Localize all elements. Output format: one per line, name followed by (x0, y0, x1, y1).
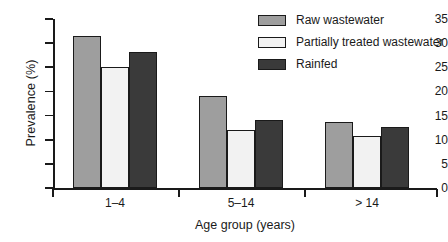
x-axis-title: Age group (years) (53, 218, 437, 232)
bar (325, 122, 353, 188)
bar (73, 36, 101, 188)
bar (353, 136, 381, 188)
bar (381, 127, 409, 188)
y-tick (45, 66, 53, 68)
x-group-label: 1–4 (55, 196, 175, 210)
x-tick (178, 189, 180, 197)
x-axis-line (53, 188, 437, 190)
legend-swatch (258, 59, 286, 70)
y-tick (45, 139, 53, 141)
y-tick (45, 163, 53, 165)
x-group-label: 5–14 (181, 196, 301, 210)
y-tick (45, 18, 53, 20)
y-tick (45, 91, 53, 93)
legend-label: Rainfed (296, 57, 337, 71)
legend-label: Raw wastewater (296, 13, 384, 27)
x-tick (304, 189, 306, 197)
bar (101, 67, 129, 188)
x-tick (52, 189, 54, 197)
x-tick (436, 189, 438, 197)
bar-chart-figure: Prevalence (%) 05101520253035 1–45–14> 1… (0, 0, 448, 242)
bar (129, 52, 157, 188)
bar (255, 120, 283, 188)
y-tick (45, 42, 53, 44)
bar (227, 130, 255, 188)
x-group-label: > 14 (307, 196, 427, 210)
y-axis-title: Prevalence (%) (24, 28, 38, 178)
y-tick (45, 115, 53, 117)
legend-swatch (258, 15, 286, 26)
legend-label: Partially treated wastewater (296, 35, 443, 49)
bar (199, 96, 227, 188)
legend-swatch (258, 37, 286, 48)
